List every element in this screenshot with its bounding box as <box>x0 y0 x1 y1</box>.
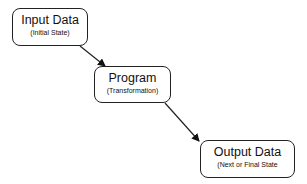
node-output-data: Output Data (Next or Final State <box>200 140 295 178</box>
node-input-data: Input Data (Initial State) <box>12 8 88 46</box>
node-title: Input Data <box>13 13 87 27</box>
node-subtitle: (Initial State) <box>13 28 87 37</box>
node-subtitle: (Transformation) <box>95 86 170 95</box>
node-program: Program (Transformation) <box>94 66 171 103</box>
node-title: Output Data <box>201 145 294 159</box>
edge-input-to-program <box>80 46 105 66</box>
edge-program-to-output <box>165 103 199 141</box>
node-title: Program <box>95 71 170 85</box>
node-subtitle: (Next or Final State <box>201 160 294 169</box>
